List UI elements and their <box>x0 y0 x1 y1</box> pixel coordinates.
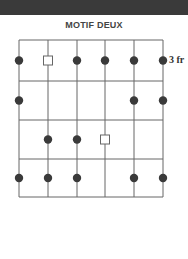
note-dot <box>130 56 138 64</box>
note-dot <box>73 174 81 182</box>
note-dot <box>73 56 81 64</box>
fret-position-label: 3 fr <box>169 54 184 65</box>
note-dot <box>44 174 52 182</box>
note-dot <box>15 96 23 104</box>
root-marker-square <box>101 135 110 144</box>
fretboard-diagram <box>0 0 188 259</box>
note-dot <box>73 135 81 143</box>
note-dot <box>44 135 52 143</box>
note-dot <box>159 174 167 182</box>
note-dot <box>15 174 23 182</box>
note-dot <box>130 174 138 182</box>
note-dot <box>130 96 138 104</box>
note-dot <box>101 56 109 64</box>
note-dot <box>159 56 167 64</box>
root-marker-square <box>44 56 53 65</box>
note-dot <box>15 56 23 64</box>
note-dot <box>159 96 167 104</box>
